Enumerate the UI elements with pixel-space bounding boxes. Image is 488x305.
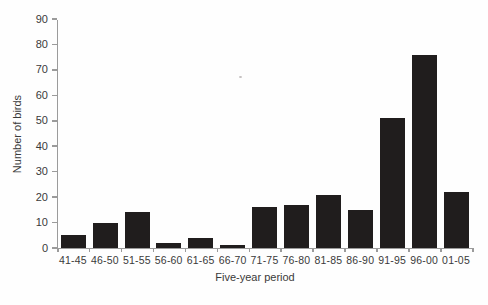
x-tick (217, 248, 219, 252)
plot-area: 010203040506070809041-4546-5051-5556-606… (57, 20, 472, 249)
x-tick (185, 248, 187, 252)
bar-41-45 (61, 235, 86, 248)
bar-chart: Number of birds 010203040506070809041-45… (0, 0, 488, 305)
bar-96-00 (412, 55, 437, 248)
bar-56-60 (156, 243, 181, 248)
x-tick-label: 01-05 (438, 255, 474, 266)
x-tick (376, 248, 378, 252)
bar-71-75 (252, 207, 277, 248)
x-tick (472, 248, 474, 252)
bar-01-05 (444, 192, 469, 248)
x-tick-label: 61-65 (183, 255, 219, 266)
x-tick (57, 248, 59, 252)
bar-76-80 (284, 205, 309, 248)
y-tick-label: 50 (14, 115, 48, 126)
x-tick-label: 66-70 (215, 255, 251, 266)
x-tick (344, 248, 346, 252)
y-tick-label: 80 (14, 39, 48, 50)
bar-61-65 (188, 238, 213, 248)
x-tick-label: 76-80 (278, 255, 314, 266)
bar-46-50 (93, 223, 118, 248)
x-tick-label: 91-95 (374, 255, 410, 266)
y-tick (52, 18, 57, 20)
scan-speck (239, 76, 242, 78)
y-tick (52, 171, 57, 173)
x-axis-title: Five-year period (57, 271, 453, 283)
y-tick (52, 120, 57, 122)
x-tick-label: 56-60 (151, 255, 187, 266)
bar-81-85 (316, 195, 341, 248)
y-tick-label: 10 (14, 217, 48, 228)
y-tick (52, 44, 57, 46)
y-tick (52, 196, 57, 198)
y-tick (52, 95, 57, 97)
x-tick-label: 51-55 (119, 255, 155, 266)
x-tick (249, 248, 251, 252)
y-tick-label: 30 (14, 166, 48, 177)
x-tick-label: 96-00 (406, 255, 442, 266)
bar-51-55 (125, 212, 150, 248)
y-tick-label: 40 (14, 141, 48, 152)
x-tick (121, 248, 123, 252)
x-tick (440, 248, 442, 252)
y-tick-label: 90 (14, 14, 48, 25)
y-tick (52, 145, 57, 147)
x-tick-label: 46-50 (87, 255, 123, 266)
x-tick (280, 248, 282, 252)
x-tick-label: 71-75 (247, 255, 283, 266)
x-tick (408, 248, 410, 252)
bar-86-90 (348, 210, 373, 248)
x-tick-label: 81-85 (310, 255, 346, 266)
y-tick (52, 69, 57, 71)
y-tick-label: 0 (14, 243, 48, 254)
x-tick-label: 86-90 (342, 255, 378, 266)
y-tick (52, 222, 57, 224)
y-tick-label: 60 (14, 90, 48, 101)
x-tick-label: 41-45 (55, 255, 91, 266)
x-tick (312, 248, 314, 252)
x-tick (89, 248, 91, 252)
bar-91-95 (380, 118, 405, 248)
x-tick (153, 248, 155, 252)
y-axis-title: Number of birds (11, 95, 23, 173)
bar-66-70 (220, 245, 245, 248)
y-tick-label: 20 (14, 192, 48, 203)
y-tick-label: 70 (14, 64, 48, 75)
